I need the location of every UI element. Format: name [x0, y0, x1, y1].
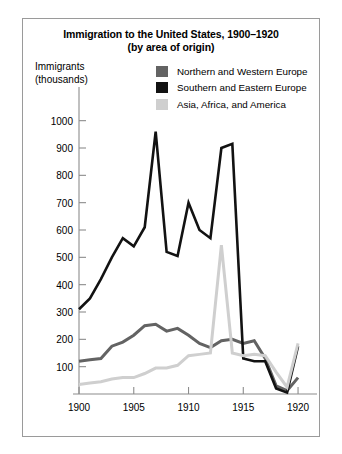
y-tick-label: 300	[39, 307, 73, 318]
y-tick-label: 1000	[39, 115, 73, 126]
chart-plot-area: 1002003004005006007008009001000 19001905…	[23, 19, 320, 437]
x-tick-label: 1900	[59, 402, 99, 413]
x-tick-label: 1905	[114, 402, 154, 413]
x-tick-label: 1920	[278, 402, 318, 413]
y-tick-label: 100	[39, 361, 73, 372]
y-tick-label: 800	[39, 170, 73, 181]
x-tick-label: 1915	[223, 402, 263, 413]
chart-figure: Immigration to the United States, 1900–1…	[22, 18, 320, 437]
y-tick-label: 700	[39, 197, 73, 208]
series-line-2	[79, 245, 298, 387]
series-line-1	[79, 132, 298, 393]
x-tick-label: 1910	[169, 402, 209, 413]
y-tick-label: 200	[39, 334, 73, 345]
y-tick-label: 900	[39, 143, 73, 154]
y-tick-label: 500	[39, 252, 73, 263]
y-tick-label: 400	[39, 279, 73, 290]
y-tick-label: 600	[39, 225, 73, 236]
